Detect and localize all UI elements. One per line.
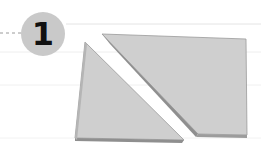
step-illustration: 1 (0, 0, 261, 156)
step-number: 1 (32, 18, 54, 50)
step-number-badge: 1 (21, 12, 65, 56)
